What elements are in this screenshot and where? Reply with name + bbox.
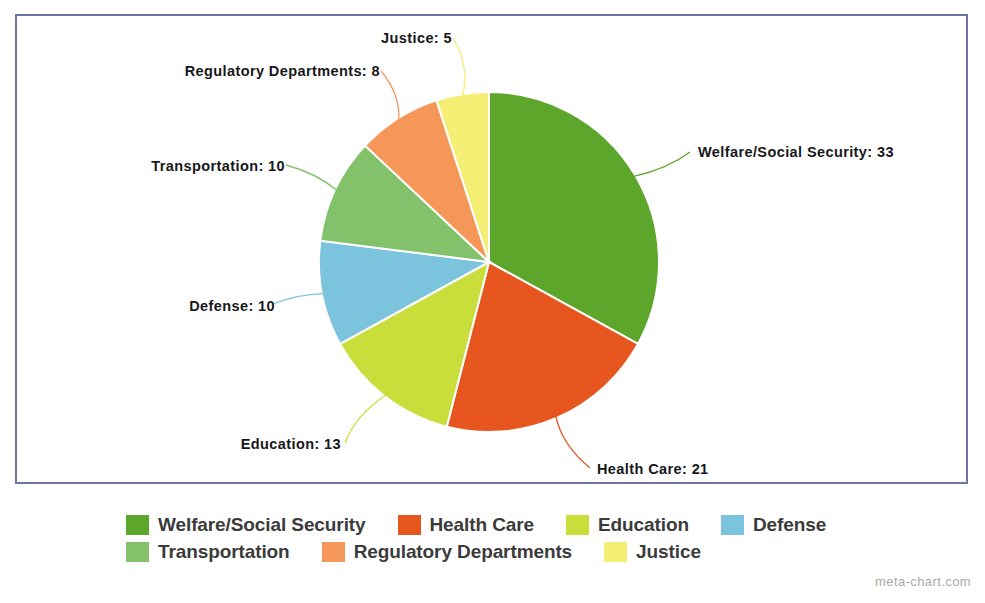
legend-swatch-justice [604, 542, 627, 562]
callout-label-health-care: Health Care: 21 [597, 462, 709, 477]
legend-swatch-regulatory-departments [322, 542, 345, 562]
legend-label-regulatory-departments: Regulatory Departments [354, 542, 572, 561]
legend-label-health-care: Health Care [430, 515, 535, 534]
callout-label-education: Education: 13 [241, 437, 341, 452]
legend-swatch-transportation [126, 542, 149, 562]
callout-label-justice: Justice: 5 [381, 31, 452, 46]
legend: Welfare/Social Security Health Care Educ… [0, 511, 985, 565]
legend-label-transportation: Transportation [158, 542, 290, 561]
legend-item-justice[interactable]: Justice [604, 542, 701, 562]
legend-label-welfare-social-security: Welfare/Social Security [158, 515, 366, 534]
legend-row-2: Transportation Regulatory Departments Ju… [0, 538, 985, 565]
callout-label-welfare-social-security: Welfare/Social Security: 33 [698, 145, 894, 160]
legend-label-justice: Justice [636, 542, 701, 561]
callout-label-transportation: Transportation: 10 [151, 159, 285, 174]
legend-swatch-defense [721, 515, 744, 535]
watermark: meta-chart.com [875, 574, 971, 589]
legend-item-transportation[interactable]: Transportation [126, 542, 290, 562]
legend-row-1: Welfare/Social Security Health Care Educ… [0, 511, 985, 538]
legend-swatch-welfare-social-security [126, 515, 149, 535]
legend-item-welfare-social-security[interactable]: Welfare/Social Security [126, 515, 366, 535]
legend-item-education[interactable]: Education [566, 515, 689, 535]
chart-frame [15, 14, 968, 484]
legend-label-education: Education [598, 515, 689, 534]
legend-swatch-health-care [398, 515, 421, 535]
legend-label-defense: Defense [753, 515, 826, 534]
legend-item-regulatory-departments[interactable]: Regulatory Departments [322, 542, 572, 562]
legend-item-defense[interactable]: Defense [721, 515, 826, 535]
callout-label-regulatory-departments: Regulatory Departments: 8 [185, 64, 380, 79]
callout-label-defense: Defense: 10 [189, 299, 275, 314]
legend-item-health-care[interactable]: Health Care [398, 515, 535, 535]
legend-swatch-education [566, 515, 589, 535]
